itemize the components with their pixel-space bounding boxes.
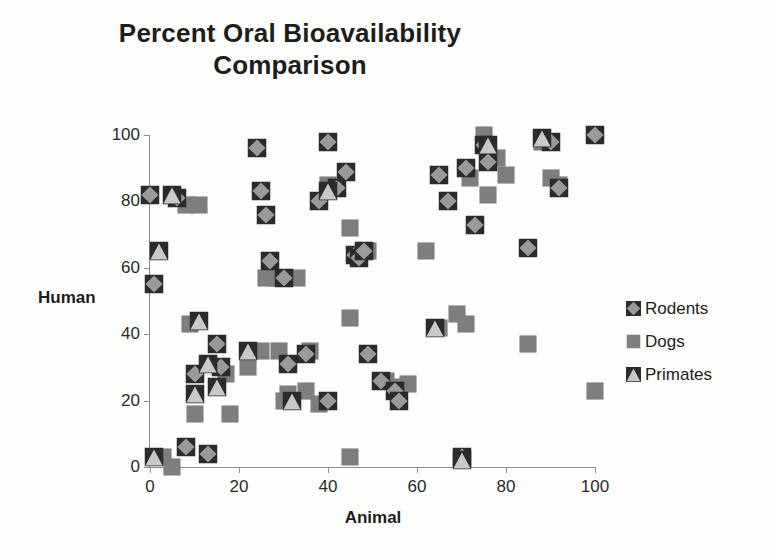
data-point-primates	[207, 378, 226, 397]
data-point-primates	[185, 384, 204, 403]
x-tick-label: 40	[319, 477, 338, 497]
data-point-rodents	[465, 215, 484, 234]
x-axis-title: Animal	[150, 508, 596, 528]
x-axis-line	[150, 467, 596, 468]
chart-title: Percent Oral Bioavailability Comparison	[60, 18, 520, 81]
data-point-rodents	[296, 345, 315, 364]
data-point-rodents	[207, 335, 226, 354]
data-point-primates	[425, 318, 444, 337]
data-point-dogs	[456, 315, 475, 334]
data-point-primates	[145, 448, 164, 467]
legend-label: Dogs	[645, 332, 685, 352]
legend-item-dogs[interactable]: Dogs	[626, 325, 712, 358]
triangle-icon	[626, 367, 641, 382]
legend-label: Rodents	[645, 299, 708, 319]
y-tick-label: 0	[131, 457, 140, 477]
data-point-dogs	[185, 404, 204, 423]
data-point-rodents	[479, 152, 498, 171]
data-point-dogs	[519, 335, 538, 354]
data-point-dogs	[416, 242, 435, 261]
data-point-primates	[452, 451, 471, 470]
data-point-primates	[163, 185, 182, 204]
legend-label: Primates	[645, 365, 712, 385]
data-point-rodents	[519, 238, 538, 257]
data-point-dogs	[189, 195, 208, 214]
square-icon	[626, 334, 641, 349]
x-tick-label: 100	[581, 477, 609, 497]
x-tick-mark	[150, 467, 151, 473]
y-tick-label: 60	[121, 258, 140, 278]
data-point-dogs	[341, 308, 360, 327]
legend-item-rodents[interactable]: Rodents	[626, 292, 712, 325]
y-tick-label: 20	[121, 391, 140, 411]
data-point-dogs	[341, 448, 360, 467]
data-point-rodents	[278, 355, 297, 374]
data-point-dogs	[479, 185, 498, 204]
data-point-primates	[319, 182, 338, 201]
data-point-primates	[189, 311, 208, 330]
y-tick-label: 80	[121, 191, 140, 211]
data-point-rodents	[586, 126, 605, 145]
data-point-rodents	[176, 438, 195, 457]
data-point-rodents	[319, 132, 338, 151]
data-point-primates	[532, 129, 551, 148]
data-point-rodents	[256, 205, 275, 224]
data-point-rodents	[456, 159, 475, 178]
data-point-rodents	[359, 345, 378, 364]
data-point-rodents	[247, 139, 266, 158]
legend-item-primates[interactable]: Primates	[626, 358, 712, 391]
data-point-primates	[283, 391, 302, 410]
x-tick-mark	[506, 467, 507, 473]
x-tick-label: 80	[497, 477, 516, 497]
chart-title-line-2: Comparison	[60, 50, 520, 82]
data-point-dogs	[221, 404, 240, 423]
y-tick-mark	[144, 135, 150, 136]
data-point-rodents	[145, 275, 164, 294]
y-tick-mark	[144, 334, 150, 335]
data-point-rodents	[252, 182, 271, 201]
data-point-dogs	[586, 381, 605, 400]
y-tick-mark	[144, 268, 150, 269]
data-point-rodents	[430, 165, 449, 184]
chart-title-line-1: Percent Oral Bioavailability	[60, 18, 520, 50]
x-tick-mark	[595, 467, 596, 473]
data-point-primates	[479, 135, 498, 154]
data-point-dogs	[238, 358, 257, 377]
x-tick-label: 20	[230, 477, 249, 497]
data-point-dogs	[497, 165, 516, 184]
data-point-rodents	[354, 242, 373, 261]
data-point-primates	[238, 341, 257, 360]
x-tick-label: 0	[145, 477, 154, 497]
data-point-rodents	[198, 444, 217, 463]
data-point-rodents	[336, 162, 355, 181]
data-point-rodents	[319, 391, 338, 410]
x-tick-mark	[417, 467, 418, 473]
y-tick-label: 40	[121, 324, 140, 344]
y-axis-title: Human	[38, 288, 96, 308]
data-point-dogs	[341, 218, 360, 237]
data-point-rodents	[141, 185, 160, 204]
data-point-rodents	[439, 192, 458, 211]
plot-area: 020406080100 020406080100	[150, 135, 595, 467]
chart-legend: RodentsDogsPrimates	[626, 292, 712, 391]
x-tick-mark	[328, 467, 329, 473]
data-point-primates	[198, 355, 217, 374]
data-point-primates	[149, 242, 168, 261]
data-point-rodents	[274, 268, 293, 287]
x-tick-label: 60	[408, 477, 427, 497]
y-tick-label: 100	[112, 125, 140, 145]
diamond-icon	[626, 301, 641, 316]
x-tick-mark	[239, 467, 240, 473]
data-point-rodents	[390, 391, 409, 410]
data-point-dogs	[163, 458, 182, 477]
y-tick-mark	[144, 401, 150, 402]
scatter-chart: Percent Oral Bioavailability Comparison …	[0, 0, 769, 559]
data-point-rodents	[550, 179, 569, 198]
